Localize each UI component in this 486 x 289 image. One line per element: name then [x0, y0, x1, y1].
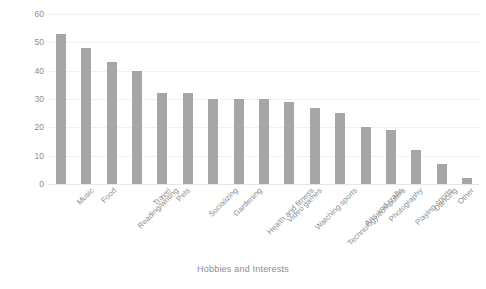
- bar: [411, 150, 421, 184]
- x-axis-title: Hobbies and Interests: [0, 264, 486, 274]
- bar: [234, 99, 244, 184]
- x-axis-tick-label: Health and fitness: [265, 186, 316, 237]
- gridline: [48, 184, 480, 185]
- bar: [183, 93, 193, 184]
- bar: [107, 62, 117, 184]
- y-axis-tick-label: 40: [20, 66, 44, 76]
- bars-group: [48, 14, 480, 184]
- x-axis-tick-labels: MusicFoodReading/writingTravelPetsSocial…: [48, 186, 480, 256]
- y-axis-tick-label: 10: [20, 151, 44, 161]
- plot-area: [48, 14, 480, 184]
- bar: [81, 48, 91, 184]
- x-axis-tick-label: Pets: [175, 186, 192, 203]
- bar: [361, 127, 371, 184]
- bar: [437, 164, 447, 184]
- y-axis-tick-label: 30: [20, 94, 44, 104]
- x-axis-tick-label: Music: [75, 186, 96, 207]
- bar: [132, 71, 142, 184]
- bar: [335, 113, 345, 184]
- bar: [157, 93, 167, 184]
- x-axis-tick-label: Other: [456, 186, 476, 206]
- bar: [208, 99, 218, 184]
- bar-chart: Percentage 0102030405060 MusicFoodReadin…: [0, 0, 486, 289]
- x-axis-tick-label: Food: [99, 186, 118, 205]
- y-axis-tick-label: 0: [20, 179, 44, 189]
- y-axis-tick-labels: 0102030405060: [20, 8, 44, 188]
- y-axis-tick-label: 20: [20, 122, 44, 132]
- bar: [284, 102, 294, 184]
- bar: [386, 130, 396, 184]
- bar: [259, 99, 269, 184]
- bar: [462, 178, 472, 184]
- y-axis-tick-label: 50: [20, 37, 44, 47]
- bar: [310, 108, 320, 185]
- x-axis-tick-label: Reading/writing: [135, 186, 179, 230]
- bar: [56, 34, 66, 184]
- y-axis-tick-label: 60: [20, 9, 44, 19]
